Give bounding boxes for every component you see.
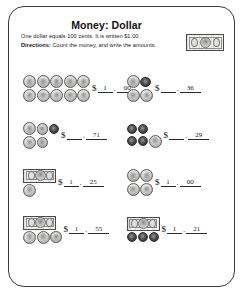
money-group [127, 169, 154, 196]
money-group [127, 75, 154, 102]
dollar-sign: $ [155, 178, 160, 187]
answer-area: $ .71 [61, 131, 107, 140]
coin-line [127, 169, 154, 182]
problem-3: $ .71 [19, 112, 123, 159]
dollar-sign: $ [92, 84, 97, 93]
penny-coin-icon [138, 136, 149, 147]
problem-8: $1.21 [123, 206, 227, 253]
coin-line [23, 184, 36, 197]
problem-row: $ .71$ .29 [19, 112, 226, 159]
coin-line [23, 231, 62, 244]
answer-cents-blank[interactable]: 71 [86, 131, 107, 140]
penny-coin-icon [127, 124, 138, 135]
problem-row: $1.00$ .36 [19, 65, 226, 112]
bill-inner [26, 171, 54, 180]
directions-text: Count the money, and write the amounts. [52, 42, 156, 48]
dollar-sign: $ [162, 225, 167, 234]
quarter-coin-icon [64, 89, 77, 102]
dollar-bill-icon [186, 34, 224, 51]
quarter-coin-icon [77, 89, 90, 102]
bill-inner [129, 219, 157, 228]
coin-stack [23, 122, 59, 149]
money-group [23, 169, 56, 197]
problem-5: $1.25 [19, 159, 123, 206]
answer-dollars-blank[interactable]: 1 [64, 178, 79, 187]
bill-portrait-icon [138, 218, 149, 229]
bill-corner-oval-left [131, 219, 138, 228]
coin-line [127, 124, 162, 135]
bill-inner [189, 37, 222, 49]
money-group [23, 216, 62, 244]
coin-line [23, 122, 59, 135]
nickel-coin-icon [50, 231, 62, 243]
answer-cents-blank[interactable]: 29 [188, 131, 209, 140]
nickel-coin-icon [37, 137, 49, 149]
quarter-coin-icon [127, 183, 140, 196]
problem-4: $ .29 [123, 112, 227, 159]
coin-stack [23, 75, 90, 102]
answer-area: $1.55 [64, 225, 110, 234]
quarter-coin-icon [149, 135, 162, 148]
coin-line [23, 136, 59, 149]
bill-corner-oval-left [28, 171, 35, 180]
quarter-coin-icon [127, 169, 140, 182]
quarter-coin-icon [50, 89, 63, 102]
answer-dollars-blank[interactable]: 1 [69, 225, 84, 234]
dollar-sign: $ [64, 225, 69, 234]
answer-area: $1.25 [58, 178, 104, 187]
bill-and-coin-stack [23, 216, 62, 244]
answer-dollars-blank[interactable]: 1 [167, 225, 182, 234]
quarter-coin-icon [64, 75, 77, 88]
money-group [23, 122, 59, 149]
bill-inner [26, 218, 54, 227]
quarter-coin-icon [37, 89, 50, 102]
bill-corner-oval-left [191, 38, 198, 47]
nickel-coin-icon [37, 123, 49, 135]
coin-line [127, 232, 160, 243]
answer-cents-blank[interactable]: 36 [180, 84, 201, 93]
answer-dollars-blank[interactable]: 1 [98, 84, 113, 93]
answer-dollars-blank[interactable] [161, 84, 176, 93]
penny-coin-icon [127, 136, 138, 147]
bill-portrait-icon [35, 217, 46, 228]
answer-dollars-blank[interactable] [67, 131, 82, 140]
answer-cents-blank[interactable]: 55 [88, 225, 109, 234]
bill-corner-oval-right [149, 219, 156, 228]
quarter-coin-icon [23, 75, 36, 88]
penny-coin-icon [138, 232, 149, 243]
answer-cents-blank[interactable]: 21 [186, 225, 207, 234]
penny-coin-icon [149, 232, 160, 243]
problem-grid: $1.00$ .36$ .71$ .29$1.25$1.00$1.55$1.21 [19, 65, 226, 256]
dollar-sign: $ [58, 178, 63, 187]
answer-cents-blank[interactable]: 00 [180, 178, 201, 187]
bill-and-coin-stack [127, 217, 160, 243]
problem-6: $1.00 [123, 159, 227, 206]
penny-coin-icon [127, 232, 138, 243]
problem-1: $1.00 [19, 65, 123, 112]
worksheet-header: Money: Dollar One dollar equals 100 cent… [21, 19, 224, 65]
quarter-coin-icon [23, 184, 36, 197]
money-group [23, 75, 90, 102]
answer-dollars-blank[interactable] [169, 131, 184, 140]
coin-line [127, 183, 154, 196]
problem-7: $1.55 [19, 206, 123, 253]
answer-cents-blank[interactable]: 25 [83, 178, 104, 187]
dollar-sign: $ [61, 131, 66, 140]
quarter-coin-icon [23, 136, 36, 149]
coin-line [127, 89, 154, 102]
coin-stack [127, 169, 154, 196]
quarter-coin-icon [37, 231, 50, 244]
bill-portrait-icon [35, 170, 46, 181]
quarter-coin-icon [127, 89, 140, 102]
quarter-coin-icon [23, 231, 36, 244]
quarter-coin-icon [23, 89, 36, 102]
bill-portrait-icon [200, 37, 211, 48]
bill-corner-oval-right [213, 38, 220, 47]
coin-line [23, 89, 90, 102]
coin-line [23, 75, 90, 88]
answer-dollars-blank[interactable]: 1 [161, 178, 176, 187]
answer-area: $1.00 [155, 178, 201, 187]
quarter-coin-icon [50, 75, 63, 88]
problem-row: $1.55$1.21 [19, 206, 226, 253]
bill-corner-oval-left [28, 218, 35, 227]
